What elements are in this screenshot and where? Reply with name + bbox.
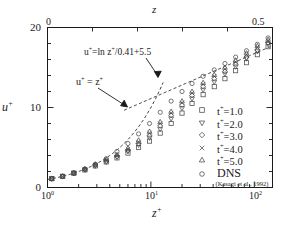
y-tick-label-20: 20 xyxy=(19,22,41,33)
legend-marker-wrap xyxy=(196,142,208,154)
linear-sublayer-annotation: u+ = z+ xyxy=(76,76,103,87)
top-axis-max-label: 0.5 xyxy=(252,17,265,27)
log-law-eq: =ln z xyxy=(92,47,111,57)
legend-item-label: t+=4.0 xyxy=(217,142,243,155)
triangle-up-marker xyxy=(196,154,208,166)
triangle-down-marker xyxy=(196,117,208,129)
cross-marker xyxy=(196,142,208,154)
legend-item-2[interactable]: t+=3.0 xyxy=(196,129,288,142)
cross-marker xyxy=(200,145,205,150)
square-marker xyxy=(200,108,205,113)
x-tick-label-1: 100 xyxy=(41,190,54,201)
log-law-rest: /0.41+5.5 xyxy=(115,47,152,57)
legend: t+=1.0t+=2.0t+=3.0t+=4.0t+=5.0DNS(Kasagi… xyxy=(196,104,288,187)
top-axis-title: z xyxy=(152,4,156,15)
legend-item-label: t+=2.0 xyxy=(217,117,243,130)
y-axis-title: u+ xyxy=(2,100,13,113)
x-tick-3-base: 10 xyxy=(249,190,259,201)
log-law-annotation: u+=ln z+/0.41+5.5 xyxy=(84,47,151,58)
x-tick-1-base: 10 xyxy=(41,190,51,201)
legend-marker-wrap xyxy=(196,129,208,141)
square-marker xyxy=(196,104,208,116)
x-tick-2-base: 10 xyxy=(145,190,155,201)
x-tick-1-exp: 0 xyxy=(51,189,54,196)
x-tick-3-exp: 2 xyxy=(259,189,262,196)
triangle-up-marker xyxy=(199,157,204,162)
legend-item-1[interactable]: t+=2.0 xyxy=(196,117,288,130)
x-tick-label-2: 101 xyxy=(145,190,158,201)
legend-marker-wrap xyxy=(196,117,208,129)
y-tick-label-0: 0 xyxy=(19,182,41,193)
legend-item-4[interactable]: t+=5.0 xyxy=(196,154,288,167)
diamond-marker xyxy=(199,132,205,138)
circle-marker xyxy=(196,168,208,180)
circle-marker xyxy=(200,171,205,176)
legend-item-3[interactable]: t+=4.0 xyxy=(196,142,288,155)
top-axis-min-label: 0 xyxy=(46,17,51,27)
x-axis-title: z+ xyxy=(152,206,162,219)
legend-item-label: t+=3.0 xyxy=(217,129,243,142)
y-axis-title-sup: + xyxy=(8,99,13,108)
x-tick-2-exp: 1 xyxy=(155,189,158,196)
legend-marker-wrap xyxy=(196,104,208,116)
legend-item-label: t+=5.0 xyxy=(217,154,243,167)
legend-marker-wrap xyxy=(196,154,208,166)
y-tick-label-10: 10 xyxy=(19,102,41,113)
legend-citation: (Kasagi et al., 1992) xyxy=(196,180,288,187)
legend-item-label: t+=1.0 xyxy=(217,104,243,117)
legend-marker-wrap xyxy=(196,168,208,180)
triangle-down-marker xyxy=(199,121,204,126)
legend-item-0[interactable]: t+=1.0 xyxy=(196,104,288,117)
linear-sup2: + xyxy=(100,75,104,82)
x-axis-title-sup: + xyxy=(157,205,162,214)
x-tick-label-3: 102 xyxy=(249,190,262,201)
diamond-marker xyxy=(196,129,208,141)
linear-eq: = z xyxy=(85,76,100,87)
legend-dns-label: DNS xyxy=(217,166,241,181)
legend-item-dns[interactable]: DNS xyxy=(196,167,288,181)
